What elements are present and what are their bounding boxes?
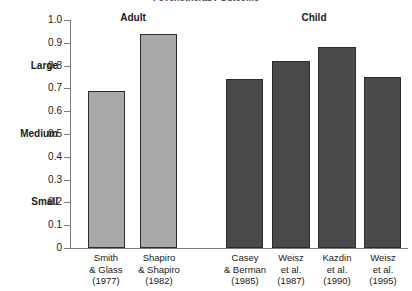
bar-caption-line: Weisz xyxy=(354,252,412,264)
figure-title: Psychotherapy Outcome xyxy=(0,0,412,1)
y-tick-label: 0.4 xyxy=(36,152,62,162)
y-tick-label: 0.7 xyxy=(36,83,62,93)
effect-size-label: Medium xyxy=(4,129,58,139)
bar xyxy=(272,61,310,248)
bar-chart: Psychotherapy Outcome 1.00.90.80.70.60.5… xyxy=(0,0,412,291)
y-tick-label: 0.9 xyxy=(36,38,62,48)
y-tick-label: 1.0 xyxy=(36,15,62,25)
bar-caption: Weiszet al.(1995) xyxy=(354,252,412,287)
bar-caption-line: (1995) xyxy=(354,275,412,287)
bar-caption-line: et al. xyxy=(354,264,412,276)
x-axis-line xyxy=(70,248,408,249)
y-tick-mark xyxy=(64,248,70,249)
bar xyxy=(88,91,125,248)
bar-caption-line: Shapiro xyxy=(123,252,195,264)
bar xyxy=(140,34,177,248)
effect-size-label: Large xyxy=(4,61,58,71)
y-tick-label: 0.1 xyxy=(36,220,62,230)
y-tick-label: 0 xyxy=(36,243,62,253)
y-tick-label: 0.3 xyxy=(36,175,62,185)
bar-caption: Shapiro& Shapiro(1982) xyxy=(123,252,195,287)
bar-caption-line: (1982) xyxy=(123,275,195,287)
bar xyxy=(364,77,401,248)
bar xyxy=(318,47,356,248)
effect-size-label: Small xyxy=(4,197,58,207)
y-tick-label: 0.6 xyxy=(36,106,62,116)
plot-area xyxy=(70,20,408,248)
bar-caption-line: & Shapiro xyxy=(123,264,195,276)
bar xyxy=(226,79,263,248)
